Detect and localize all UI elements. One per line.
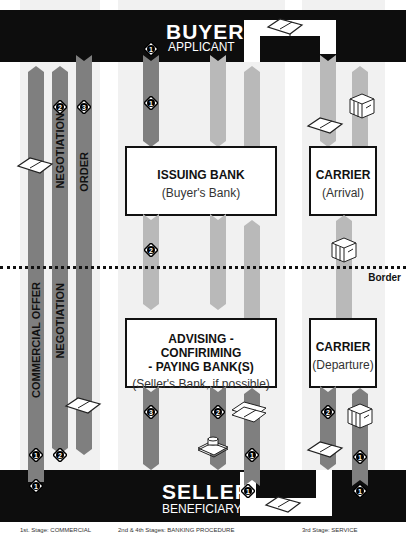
document-icon	[264, 495, 302, 515]
step-badge-1: 1	[29, 479, 43, 493]
step-badge-1: 1	[353, 450, 367, 464]
svg-text:1: 1	[149, 100, 153, 107]
svg-text:1: 1	[358, 454, 362, 461]
caption-stage2-4: 2nd & 4th Stages: BANKING PROCEDURE	[118, 527, 234, 533]
svg-text:2: 2	[58, 452, 62, 459]
buyer-path-left-leg	[244, 20, 260, 62]
issuing-to-advising-arrow-2	[210, 214, 226, 310]
svg-text:2: 2	[326, 409, 330, 416]
advising-bank-box: ADVISING - CONFIRIMING - PAYING BANK(S) …	[125, 318, 277, 388]
border-label: Border	[368, 272, 401, 283]
cargo-crate-icon	[348, 92, 376, 120]
cargo-crate-icon	[330, 236, 358, 264]
issuing-to-advising-arrow	[143, 214, 159, 310]
step-badge-2: 2	[211, 405, 225, 419]
document-icon	[306, 440, 344, 460]
svg-text:2: 2	[58, 104, 62, 111]
advising-bank-title-line1: ADVISING - CONFIRIMING	[127, 332, 275, 360]
negotiation-label-bottom: NEGOTIATION	[54, 283, 66, 359]
commercial-offer-label: COMMERCIAL OFFER	[30, 282, 42, 398]
issuing-to-buyer-doc-arrow	[210, 55, 226, 147]
document-icon	[16, 156, 54, 176]
svg-text:1: 1	[250, 452, 254, 459]
carrier-arrival-box: CARRIER (Arrival)	[309, 146, 377, 216]
step-badge-1: 1	[241, 484, 255, 498]
commercial-offer-arrow	[28, 66, 44, 482]
carrier-departure-title: CARRIER	[311, 340, 375, 354]
svg-text:3: 3	[149, 409, 153, 416]
svg-text:1: 1	[149, 46, 153, 53]
advising-bank-title-line2: - PAYING BANK(S)	[127, 360, 275, 374]
step-badge-1: 1	[144, 42, 158, 56]
seller-title: SELLER	[162, 480, 251, 504]
document-icon	[64, 396, 102, 416]
order-arrow	[76, 55, 92, 455]
advising-to-issuing-doc-arrow	[244, 220, 260, 324]
seller-path-right-leg	[316, 470, 332, 516]
buyer-path-right-leg	[320, 20, 336, 54]
svg-text:2: 2	[216, 409, 220, 416]
issuing-bank-box: ISSUING BANK (Buyer's Bank)	[125, 146, 277, 216]
step-badge-1: 1	[245, 448, 259, 462]
svg-text:1: 1	[358, 488, 362, 495]
documents-stack-icon	[230, 400, 268, 426]
svg-text:1: 1	[34, 452, 38, 459]
step-badge-2: 2	[321, 405, 335, 419]
document-icon	[306, 116, 344, 136]
caption-stage1: 1st. Stage: COMMERCIAL	[20, 527, 91, 533]
negotiation-label-top: NEGOTIATION	[54, 113, 66, 189]
carrier-departure-subtitle: (Departure)	[311, 358, 375, 372]
svg-text:1: 1	[34, 483, 38, 490]
departure-to-arrival-transport-arrow	[336, 215, 352, 325]
carrier-arrival-title: CARRIER	[311, 168, 375, 182]
step-badge-2: 2	[53, 448, 67, 462]
order-label: ORDER	[78, 152, 90, 192]
svg-text:3: 3	[82, 104, 86, 111]
step-badge-2: 2	[144, 243, 158, 257]
border-line	[0, 266, 406, 269]
money-stack-icon	[196, 436, 230, 458]
step-badge-1: 1	[29, 448, 43, 462]
advising-to-seller-arrow-3	[143, 386, 159, 470]
svg-text:1: 1	[246, 488, 250, 495]
issuing-bank-subtitle: (Buyer's Bank)	[127, 186, 275, 200]
carrier-departure-box: CARRIER (Departure)	[309, 318, 377, 388]
buyer-subtitle: APPLICANT	[168, 40, 235, 54]
caption-stage3: 3rd Stage: SERVICE	[302, 527, 358, 533]
svg-text:2: 2	[149, 247, 153, 254]
carrier-arrival-subtitle: (Arrival)	[311, 186, 375, 200]
document-icon	[266, 17, 304, 37]
seller-subtitle: BENEFICIARY	[162, 502, 242, 516]
step-badge-1: 1	[144, 96, 158, 110]
step-badge-2: 2	[53, 100, 67, 114]
step-badge-1: 1	[353, 484, 367, 498]
step-badge-3: 3	[144, 405, 158, 419]
issuing-bank-title: ISSUING BANK	[127, 168, 275, 182]
cargo-crate-icon	[346, 402, 374, 430]
step-badge-3: 3	[77, 100, 91, 114]
